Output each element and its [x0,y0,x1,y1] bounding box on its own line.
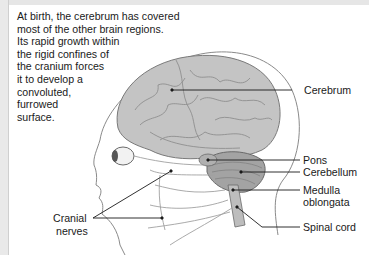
caption-text: At birth, the cerebrum has covered most … [17,10,180,123]
caption-line: most of the other brain regions. [17,23,180,36]
label-cerebellum: Cerebellum [303,166,357,178]
label-cerebrum: Cerebrum [304,84,351,96]
caption-line: the rigid confines of [17,48,180,61]
caption-line: surface. [17,111,180,124]
label-pons: Pons [303,154,327,166]
label-medulla-line2: oblongata [303,196,350,208]
caption-line: the cranium forces [17,60,180,73]
caption-line: Its rapid growth within [17,35,180,48]
caption-line: At birth, the cerebrum has covered [17,10,180,23]
caption-line: furrowed [17,98,180,111]
caption-line: it to develop a [17,73,180,86]
label-spinal-cord: Spinal cord [303,221,356,233]
label-cranial-line2: nerves [56,225,88,237]
caption-line: convoluted, [17,86,180,99]
label-cranial-line1: Cranial [53,212,87,224]
label-medulla-line1: Medulla [303,184,340,196]
